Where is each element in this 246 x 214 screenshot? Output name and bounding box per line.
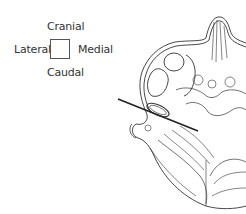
skull-axial-section-drawing [0,0,246,214]
